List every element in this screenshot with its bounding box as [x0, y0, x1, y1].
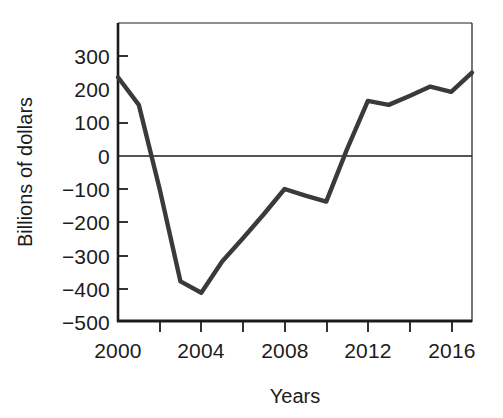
x-tick-label-2012: 2012: [344, 339, 392, 362]
x-tick-label-2004: 2004: [177, 339, 225, 362]
y-tick-label-neg100: −100: [62, 178, 110, 201]
y-tick-label-0: 0: [98, 145, 110, 168]
y-tick-label-300: 300: [74, 45, 110, 68]
x-tick-label-2008: 2008: [261, 339, 309, 362]
y-tick-label-neg200: −200: [62, 211, 110, 234]
data-line-federal-budget: [118, 73, 472, 293]
x-axis-tick-labels: 2000 2004 2008 2012 2016: [94, 339, 476, 362]
x-tick-label-2016: 2016: [428, 339, 476, 362]
x-tick-label-2000: 2000: [94, 339, 142, 362]
chart-figure: 300 200 100 0 −100 −200 −300 −400 −500 2…: [0, 0, 503, 418]
y-tick-label-100: 100: [74, 111, 110, 134]
x-axis-ticks: [160, 321, 452, 332]
y-axis-title: Billions of dollars: [14, 97, 36, 247]
x-axis-title: Years: [270, 385, 320, 407]
y-axis-tick-labels: 300 200 100 0 −100 −200 −300 −400 −500: [62, 45, 110, 334]
y-tick-label-neg400: −400: [62, 278, 110, 301]
y-tick-label-neg500: −500: [62, 311, 110, 334]
y-tick-label-neg300: −300: [62, 245, 110, 268]
line-chart: 300 200 100 0 −100 −200 −300 −400 −500 2…: [0, 0, 503, 418]
plot-frame: [117, 23, 472, 322]
y-tick-label-200: 200: [74, 78, 110, 101]
